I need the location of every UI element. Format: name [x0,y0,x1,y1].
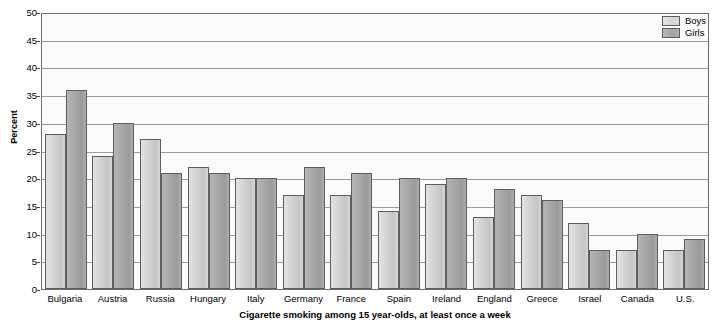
y-tick-mark-20 [36,179,40,180]
bar-group [42,14,90,289]
legend-swatch-girls [662,28,680,38]
bar-girls-ireland [446,178,467,289]
y-tick-mark-35 [36,96,40,97]
legend-item-boys[interactable]: Boys [662,16,706,26]
y-tick-mark-30 [36,124,40,125]
y-tick-mark-45 [36,41,40,42]
bar-groups [42,14,708,289]
bar-girls-france [351,173,372,289]
bar-girls-spain [399,178,420,289]
x-axis-label: U.S. [661,292,709,308]
y-tick-label-30: 30 [3,119,37,129]
y-tick-mark-25 [36,152,40,153]
x-axis-label: Hungary [184,292,232,308]
x-axis-label: Germany [280,292,328,308]
x-axis-label: Canada [614,292,662,308]
bar-group [280,14,328,289]
y-tick-label-0: 0 [3,285,37,295]
bar-group [375,14,423,289]
y-tick-label-10: 10 [3,230,37,240]
bar-group [327,14,375,289]
bar-girls-canada [637,234,658,289]
bar-boys-russia [140,139,161,289]
x-axis-labels: BulgariaAustriaRussiaHungaryItalyGermany… [41,292,709,308]
bar-girls-england [494,189,515,289]
bar-girls-hungary [209,173,230,289]
x-axis-label: Austria [89,292,137,308]
legend-swatch-boys [662,16,680,26]
y-axis-ticks: 05101520253035404550 [0,13,37,290]
bar-boys-france [330,195,351,289]
y-tick-label-35: 35 [3,91,37,101]
bar-boys-spain [378,211,399,289]
chart-title: Cigarette smoking among 15 year-olds, at… [41,309,709,320]
y-tick-label-25: 25 [3,147,37,157]
x-axis-label: Greece [518,292,566,308]
bar-group [613,14,661,289]
bar-girls-israel [589,250,610,289]
bar-boys-germany [283,195,304,289]
bar-girls-russia [161,173,182,289]
y-tick-label-20: 20 [3,174,37,184]
y-tick-mark-15 [36,207,40,208]
x-axis-label: England [470,292,518,308]
y-tick-label-15: 15 [3,202,37,212]
bar-girls-greece [542,200,563,289]
y-tick-label-45: 45 [3,36,37,46]
legend-label-girls: Girls [685,28,705,38]
bar-boys-italy [235,178,256,289]
bar-girls-bulgaria [66,90,87,289]
x-axis-label: Spain [375,292,423,308]
bar-boys-england [473,217,494,289]
legend: BoysGirls [662,16,706,38]
bar-boys-greece [521,195,542,289]
bar-boys-hungary [188,167,209,289]
y-tick-mark-10 [36,235,40,236]
bar-girls-us [684,239,705,289]
bar-chart: Percent 05101520253035404550 BoysGirls B… [0,0,715,325]
y-tick-label-50: 50 [3,8,37,18]
x-axis-label: France [327,292,375,308]
legend-item-girls[interactable]: Girls [662,28,706,38]
bar-boys-canada [616,250,637,289]
bar-boys-ireland [425,184,446,289]
y-tick-mark-50 [36,13,40,14]
bar-boys-austria [92,156,113,289]
bar-group [565,14,613,289]
x-axis-label: Russia [136,292,184,308]
bar-boys-bulgaria [45,134,66,289]
bar-group [470,14,518,289]
bar-girls-austria [113,123,134,289]
legend-label-boys: Boys [685,16,706,26]
bar-group [423,14,471,289]
bar-group [90,14,138,289]
x-axis-label: Bulgaria [41,292,89,308]
y-tick-mark-40 [36,68,40,69]
bar-boys-israel [568,223,589,289]
bar-group [137,14,185,289]
y-tick-mark-0 [36,290,40,291]
x-axis-label: Israel [566,292,614,308]
x-axis-label: Ireland [423,292,471,308]
bar-group [232,14,280,289]
plot-area [41,13,709,290]
bar-group [518,14,566,289]
bar-group [185,14,233,289]
x-axis-label: Italy [232,292,280,308]
y-tick-label-5: 5 [3,257,37,267]
y-tick-mark-5 [36,262,40,263]
y-tick-label-40: 40 [3,63,37,73]
bar-boys-us [663,250,684,289]
bar-group [661,14,709,289]
bar-girls-germany [304,167,325,289]
bar-girls-italy [256,178,277,289]
